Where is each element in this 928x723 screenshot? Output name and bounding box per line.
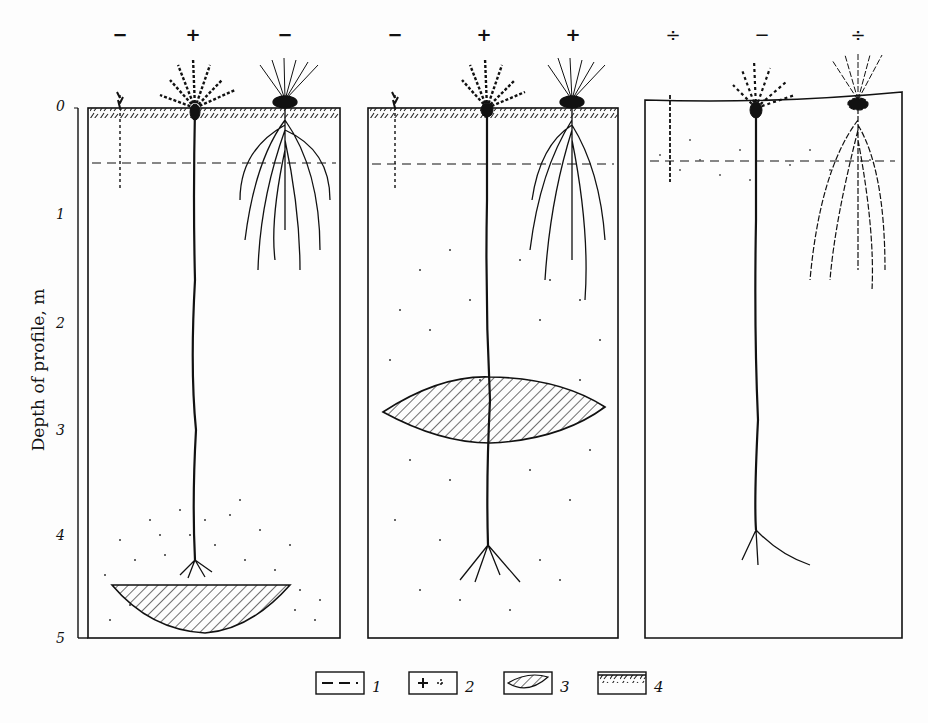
- y-tick-5: 5: [56, 630, 65, 646]
- y-tick-2: 2: [56, 315, 65, 331]
- legend-item-1: 1: [366, 678, 382, 696]
- panel-3-sign-1: ÷: [665, 24, 680, 45]
- lenticular-lens: [383, 377, 605, 443]
- bowl-lens: [112, 585, 290, 633]
- legend-num: 2: [465, 678, 475, 696]
- panel-3-sign-2: −: [754, 24, 769, 45]
- legend-symbol-dashed: [316, 672, 364, 694]
- plant-small-shallow: [392, 92, 398, 190]
- y-tick-1: 1: [56, 206, 65, 222]
- legend-item-3: 3: [554, 678, 570, 696]
- legend-num: 1: [372, 678, 382, 696]
- legend-item-2: 2: [459, 678, 475, 696]
- y-axis-label: Depth of profile, m: [28, 289, 48, 452]
- stipple-zone: [659, 139, 871, 181]
- legend-item-4: 4: [648, 678, 664, 696]
- panel-3-sign-3: ÷: [850, 24, 865, 45]
- panel-3: [645, 52, 902, 638]
- panel-1-sign-1: −: [112, 24, 127, 45]
- legend-symbol-lens: [504, 672, 552, 694]
- y-tick-4: 4: [56, 527, 65, 543]
- panel-1-sign-2: +: [185, 24, 200, 45]
- legend-symbol-surface: [598, 672, 646, 694]
- panel-2-sign-2: +: [476, 24, 491, 45]
- panel-2-sign-3: +: [565, 24, 580, 45]
- surface-soil-layer: [88, 108, 340, 118]
- legend-num: 3: [560, 678, 570, 696]
- y-axis: [74, 108, 88, 638]
- plant-taproot: [733, 60, 810, 565]
- plant-fibrous: [810, 52, 885, 290]
- panel-2: [368, 58, 618, 638]
- panel-2-sign-1: −: [387, 24, 402, 45]
- plant-taproot: [460, 58, 525, 582]
- panel-1: [88, 58, 340, 638]
- plant-fibrous: [530, 58, 605, 300]
- root-profile-diagram: [0, 0, 928, 723]
- legend-num: 4: [654, 678, 664, 696]
- plant-small-shallow: [117, 92, 123, 190]
- plant-fibrous: [240, 58, 330, 270]
- legend-symbol-plus: [409, 672, 457, 694]
- y-tick-0: 0: [56, 98, 65, 114]
- plant-taproot: [160, 58, 235, 578]
- panel-1-sign-3: −: [277, 24, 292, 45]
- y-tick-3: 3: [56, 422, 65, 438]
